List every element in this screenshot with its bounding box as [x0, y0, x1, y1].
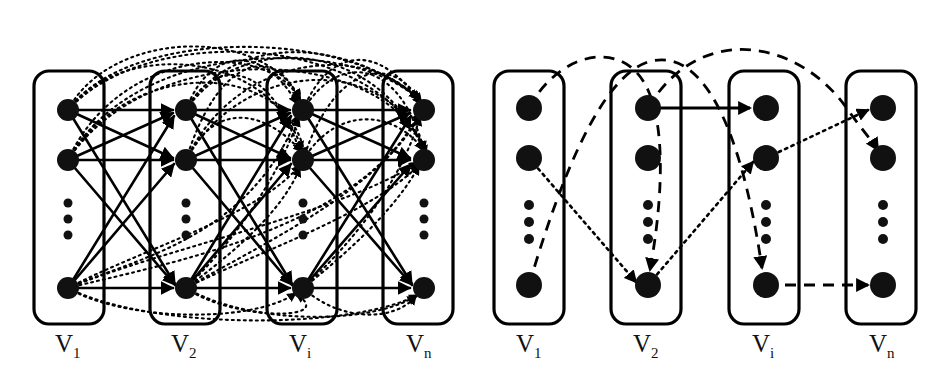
node — [413, 149, 435, 171]
right-dotted-edges — [529, 110, 868, 285]
ellipsis-dot — [64, 199, 73, 208]
ellipsis-dot — [761, 234, 771, 244]
right-layer-label-vi: Vi — [752, 330, 774, 362]
ellipsis-dot — [420, 231, 429, 240]
node — [57, 277, 79, 299]
ellipsis-dot — [761, 217, 771, 227]
ellipsis-dot — [420, 215, 429, 224]
ellipsis-dot — [524, 200, 534, 210]
ellipsis-dot — [299, 231, 308, 240]
node — [57, 149, 79, 171]
ellipsis-dot — [524, 234, 534, 244]
ellipsis-dot — [64, 231, 73, 240]
node — [516, 95, 542, 121]
left-layer-label-v1: V1 — [55, 330, 81, 362]
ellipsis-dot — [64, 215, 73, 224]
node — [635, 272, 661, 298]
left-layer-label-vi: Vi — [289, 330, 311, 362]
node — [413, 277, 435, 299]
right-layer-label-vn: Vn — [869, 330, 895, 362]
left-panel-graph — [0, 0, 471, 330]
node — [635, 95, 661, 121]
node — [57, 99, 79, 121]
node — [292, 149, 314, 171]
right-layer-label-v1: V1 — [516, 330, 542, 362]
right-ellipsis-dots — [524, 200, 888, 244]
node — [753, 145, 779, 171]
ellipsis-dot — [643, 234, 653, 244]
node — [175, 277, 197, 299]
ellipsis-dot — [643, 217, 653, 227]
left-dotted-edges — [68, 46, 426, 320]
right-panel-graph — [471, 0, 942, 330]
node — [870, 272, 896, 298]
ellipsis-dot — [182, 231, 191, 240]
node — [292, 277, 314, 299]
ellipsis-dot — [299, 199, 308, 208]
right-layer-label-v2: V2 — [633, 330, 659, 362]
path-dotted-2 — [648, 162, 753, 285]
ellipsis-dot — [643, 200, 653, 210]
node — [870, 145, 896, 171]
ellipsis-dot — [299, 215, 308, 224]
ellipsis-dot — [420, 199, 429, 208]
node — [753, 95, 779, 121]
node — [753, 272, 779, 298]
figure-root: V1 V2 Vi Vn V1 V2 Vi Vn — [0, 0, 942, 377]
path-dotted-1 — [529, 158, 636, 282]
node — [175, 99, 197, 121]
node — [175, 149, 197, 171]
node — [292, 99, 314, 121]
left-solid-edges — [68, 110, 412, 288]
right-nodes — [516, 95, 896, 298]
ellipsis-dot — [182, 199, 191, 208]
ellipsis-dot — [182, 215, 191, 224]
ellipsis-dot — [878, 234, 888, 244]
ellipsis-dot — [878, 217, 888, 227]
ellipsis-dot — [524, 217, 534, 227]
ellipsis-dot — [761, 200, 771, 210]
node — [516, 272, 542, 298]
left-layer-label-v2: V2 — [171, 330, 197, 362]
node — [870, 95, 896, 121]
node — [516, 145, 542, 171]
right-dashed-edges — [529, 49, 878, 285]
node — [413, 99, 435, 121]
left-nodes — [57, 99, 435, 299]
node — [635, 145, 661, 171]
left-layer-label-vn: Vn — [406, 330, 432, 362]
ellipsis-dot — [878, 200, 888, 210]
